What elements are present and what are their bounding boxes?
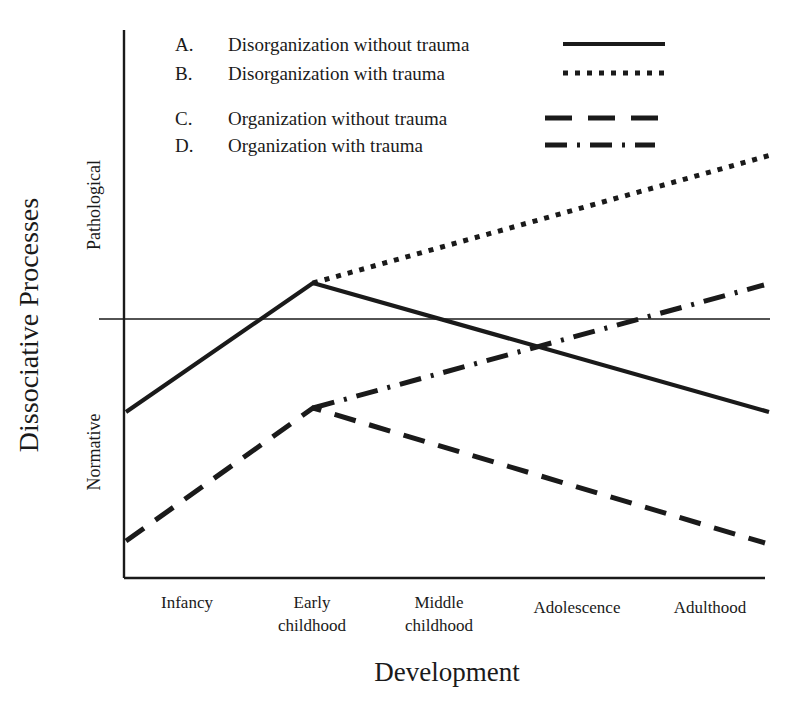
x-axis-title: Development [374, 657, 520, 687]
chart-figure: A. Disorganization without trauma B. Dis… [0, 0, 794, 711]
y-level-label-pathological: Pathological [84, 160, 104, 250]
legend-key-b: B. [175, 63, 192, 84]
chart-series-group [126, 155, 771, 543]
x-tick-label-early-childhood-line1: Early [294, 593, 331, 612]
x-tick-label-infancy: Infancy [161, 593, 213, 612]
line-chart-svg: A. Disorganization without trauma B. Dis… [0, 0, 794, 711]
x-axis-tick-labels: Infancy Early childhood Middle childhood… [161, 593, 747, 635]
legend-key-a: A. [175, 34, 193, 55]
legend-key-c: C. [175, 108, 192, 129]
legend-label-a: Disorganization without trauma [228, 34, 470, 55]
legend-key-d: D. [175, 135, 193, 156]
x-tick-label-adolescence: Adolescence [534, 598, 621, 617]
y-axis-level-labels: Pathological Normative [84, 160, 104, 490]
x-tick-label-middle-childhood-line1: Middle [414, 593, 463, 612]
series-line-a-disorganization-without-trauma [126, 283, 769, 412]
series-line-c-organization-without-trauma [126, 408, 765, 543]
legend-label-c: Organization without trauma [228, 108, 448, 129]
legend-entry-b: B. Disorganization with trauma [175, 63, 665, 84]
x-tick-label-early-childhood-line2: childhood [278, 616, 346, 635]
legend-entry-d: D. Organization with trauma [175, 135, 655, 156]
y-axis-title: Dissociative Processes [13, 198, 44, 452]
legend-entry-c: C. Organization without trauma [175, 108, 665, 129]
y-level-label-normative: Normative [84, 414, 104, 491]
x-tick-label-middle-childhood-line2: childhood [405, 616, 473, 635]
chart-legend: A. Disorganization without trauma B. Dis… [175, 34, 665, 156]
series-line-b-disorganization-with-trauma [313, 155, 771, 283]
legend-entry-a: A. Disorganization without trauma [175, 34, 665, 55]
legend-label-b: Disorganization with trauma [228, 63, 446, 84]
x-tick-label-adulthood: Adulthood [674, 598, 747, 617]
legend-label-d: Organization with trauma [228, 135, 423, 156]
